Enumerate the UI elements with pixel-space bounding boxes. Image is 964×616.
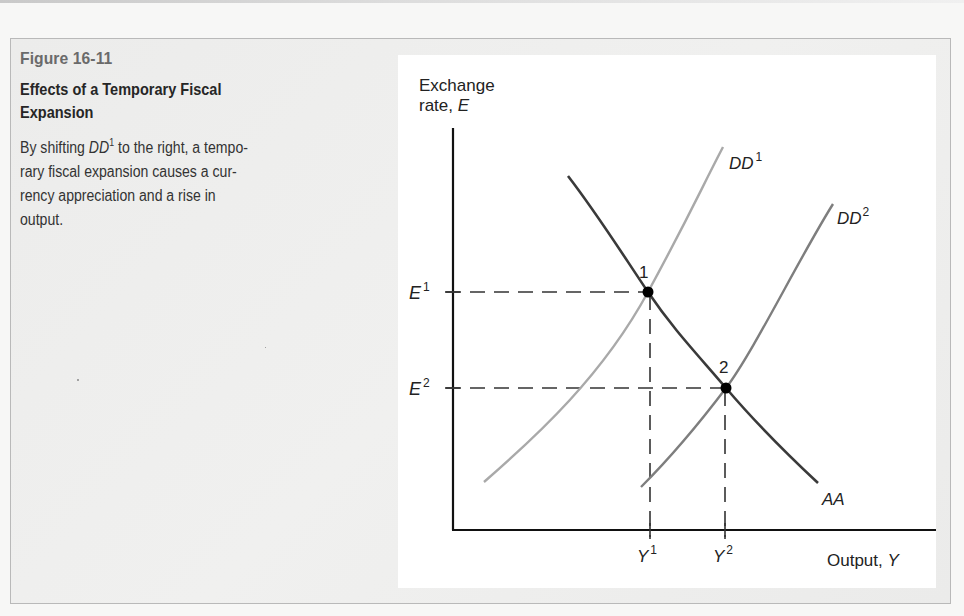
paper-speck — [77, 379, 79, 381]
description-line: rary fiscal expansion causes a cur- — [20, 160, 354, 184]
y-axis-label: Exchange — [419, 76, 495, 95]
point-2-label: 2 — [719, 358, 728, 377]
description-line: rency appreciation and a rise in — [20, 184, 354, 208]
paper-speck — [265, 347, 266, 348]
e1-tick-label: E1 — [409, 280, 430, 303]
figure-title-line: Expansion — [20, 101, 293, 124]
description-line: By shifting DD1 to the right, a tempo- — [20, 131, 354, 160]
chart-svg: Exchange rate, E 1 2 DD1 DD2 — [398, 55, 936, 588]
equilibrium-point-2 — [721, 383, 732, 394]
dd2-curve — [641, 204, 833, 487]
figure-title: Effects of a Temporary Fiscal Expansion — [20, 78, 293, 124]
figure-caption: Figure 16-11 Effects of a Temporary Fisc… — [20, 49, 380, 232]
x-axis-label: Output, Y — [827, 551, 900, 570]
y2-tick-label: Y2 — [713, 543, 733, 566]
description-line: output. — [20, 208, 354, 232]
equilibrium-point-1 — [643, 287, 654, 298]
description-text: to the right, a tempo- — [114, 139, 248, 156]
chart-panel: Exchange rate, E 1 2 DD1 DD2 — [398, 55, 936, 588]
guide-lines — [446, 292, 726, 537]
description-dd-symbol: DD — [89, 139, 109, 156]
aa-curve — [568, 176, 818, 483]
y-axis-label-line2: rate, E — [419, 96, 470, 115]
e2-tick-label: E2 — [409, 376, 430, 399]
dd1-label: DD1 — [729, 150, 763, 173]
aa-label: AA — [821, 490, 845, 509]
figure-number: Figure 16-11 — [20, 49, 351, 69]
description-text: By shifting — [20, 139, 89, 156]
y1-tick-label: Y1 — [637, 543, 657, 566]
point-1-label: 1 — [639, 263, 648, 282]
figure-title-line: Effects of a Temporary Fiscal — [20, 78, 293, 101]
figure-description: By shifting DD1 to the right, a tempo- r… — [20, 131, 354, 232]
dd2-label: DD2 — [837, 205, 870, 228]
dd1-curve — [484, 147, 723, 482]
page-top-rule — [0, 0, 964, 3]
